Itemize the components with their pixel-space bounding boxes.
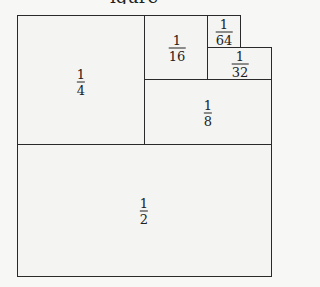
label-thirtysecond: 132 — [232, 50, 249, 79]
label-half: 12 — [140, 197, 148, 226]
label-sixtyfourth: 164 — [216, 18, 233, 47]
label-quarter: 14 — [77, 68, 85, 97]
label-sixteenth: 116 — [169, 34, 186, 63]
label-eighth: 18 — [204, 99, 212, 128]
cropped-title: igure — [110, 0, 190, 4]
